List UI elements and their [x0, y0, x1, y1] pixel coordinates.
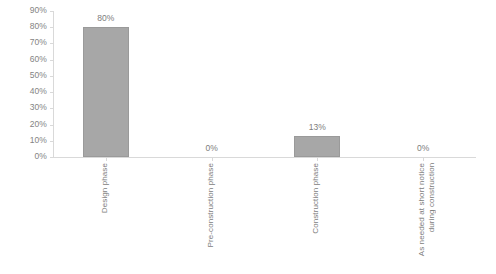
y-axis-tick-label: 20% [30, 119, 47, 129]
y-axis-tick-label: 90% [30, 5, 47, 15]
bar-value-label: 80% [76, 13, 136, 23]
y-axis-tick-label: 60% [30, 54, 47, 64]
y-axis-tick-label: 80% [30, 21, 47, 31]
bar-value-label: 0% [182, 143, 242, 153]
bar-chart: 90%80%70%60%50%40%30%20%10%0% 80%0%13%0%… [0, 0, 496, 274]
category-label: Construction phase [311, 163, 321, 234]
bar-value-label: 13% [287, 122, 347, 132]
x-axis-tick-mark [317, 157, 318, 161]
bar[interactable] [294, 136, 340, 157]
y-axis-tick-label: 10% [30, 135, 47, 145]
plot-area [53, 12, 476, 157]
category-label: As needed at short notice during constru… [417, 163, 436, 256]
bar-value-label: 0% [393, 143, 453, 153]
x-axis-tick-mark [212, 157, 213, 161]
y-axis-tick-label: 40% [30, 86, 47, 96]
x-axis-line [53, 157, 476, 158]
y-axis-tick-mark [50, 157, 53, 158]
y-axis-tick-label: 0% [35, 151, 48, 161]
y-axis-tick-label: 30% [30, 102, 47, 112]
y-axis-tick-label: 50% [30, 70, 47, 80]
category-label: Pre-construction phase [206, 163, 216, 247]
x-axis-tick-mark [423, 157, 424, 161]
x-axis-tick-mark [106, 157, 107, 161]
y-axis-tick-label: 70% [30, 37, 47, 47]
category-label: Design phase [100, 163, 110, 213]
bar[interactable] [83, 27, 129, 157]
